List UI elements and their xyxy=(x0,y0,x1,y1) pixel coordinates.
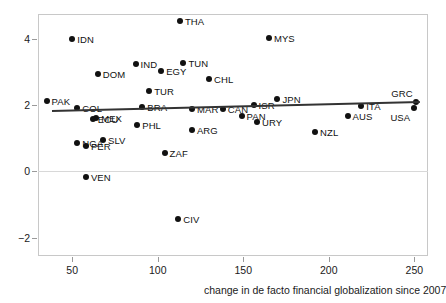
data-point xyxy=(83,174,89,180)
data-point xyxy=(266,35,272,41)
data-point-label: NZL xyxy=(320,126,338,137)
data-point xyxy=(239,113,245,119)
data-point-label: PER xyxy=(91,140,111,151)
y-tick-label: 4 xyxy=(8,33,30,45)
data-point-label: TUR xyxy=(154,86,174,97)
data-point xyxy=(345,113,351,119)
data-point xyxy=(83,143,89,149)
y-tick-label: 0 xyxy=(8,165,30,177)
data-point xyxy=(411,105,417,111)
y-tick-mark xyxy=(32,238,37,239)
data-point xyxy=(254,119,260,125)
data-point-label: THA xyxy=(185,15,204,26)
data-point xyxy=(69,36,75,42)
y-tick-mark xyxy=(32,105,37,106)
data-point xyxy=(274,96,280,102)
data-point-label: PAK xyxy=(52,95,71,106)
data-point-label: MAR xyxy=(197,103,218,114)
data-point xyxy=(162,150,168,156)
x-tick-label: 50 xyxy=(52,264,92,276)
x-tick-mark xyxy=(243,257,244,262)
data-point xyxy=(206,76,212,82)
data-point xyxy=(133,61,139,67)
y-tick-mark xyxy=(32,39,37,40)
data-point-label: USA xyxy=(390,112,410,123)
data-point-label: AUS xyxy=(353,111,373,122)
data-point xyxy=(158,68,164,74)
data-point-label: IDN xyxy=(77,33,94,44)
data-point-label: ZAF xyxy=(170,147,188,158)
data-point-label: ARG xyxy=(197,125,218,136)
x-tick-label: 100 xyxy=(138,264,178,276)
plot-frame xyxy=(38,14,428,256)
data-point-label: TUN xyxy=(188,58,208,69)
data-point xyxy=(146,88,152,94)
data-point-label: CHL xyxy=(214,74,233,85)
data-point xyxy=(134,122,140,128)
y-tick-mark xyxy=(32,171,37,172)
x-tick-label: 250 xyxy=(394,264,434,276)
x-tick-mark xyxy=(72,257,73,262)
data-point xyxy=(177,18,183,24)
data-point-label: GRC xyxy=(391,87,412,98)
data-point-label: CIV xyxy=(183,213,199,224)
data-point-label: VEN xyxy=(91,172,111,183)
y-tick-label: 2 xyxy=(8,99,30,111)
data-point-label: IND xyxy=(141,59,158,70)
data-point-label: EGY xyxy=(166,65,186,76)
data-point-label: URY xyxy=(262,116,282,127)
x-tick-mark xyxy=(329,257,330,262)
data-point xyxy=(175,216,181,222)
x-tick-mark xyxy=(158,257,159,262)
data-point xyxy=(95,71,101,77)
y-tick-label: −2 xyxy=(8,232,30,244)
data-point xyxy=(44,98,50,104)
x-tick-label: 200 xyxy=(309,264,349,276)
data-point xyxy=(189,127,195,133)
data-point xyxy=(74,140,80,146)
data-point-label: DOM xyxy=(103,68,125,79)
x-tick-label: 150 xyxy=(223,264,263,276)
x-axis-title: change in de facto financial globalizati… xyxy=(204,284,446,296)
data-point-label: PHL xyxy=(142,120,161,131)
data-point-label: ECU xyxy=(98,114,118,125)
data-point xyxy=(312,129,318,135)
data-point-label: MYS xyxy=(274,32,295,43)
x-tick-mark xyxy=(414,257,415,262)
data-point xyxy=(90,116,96,122)
